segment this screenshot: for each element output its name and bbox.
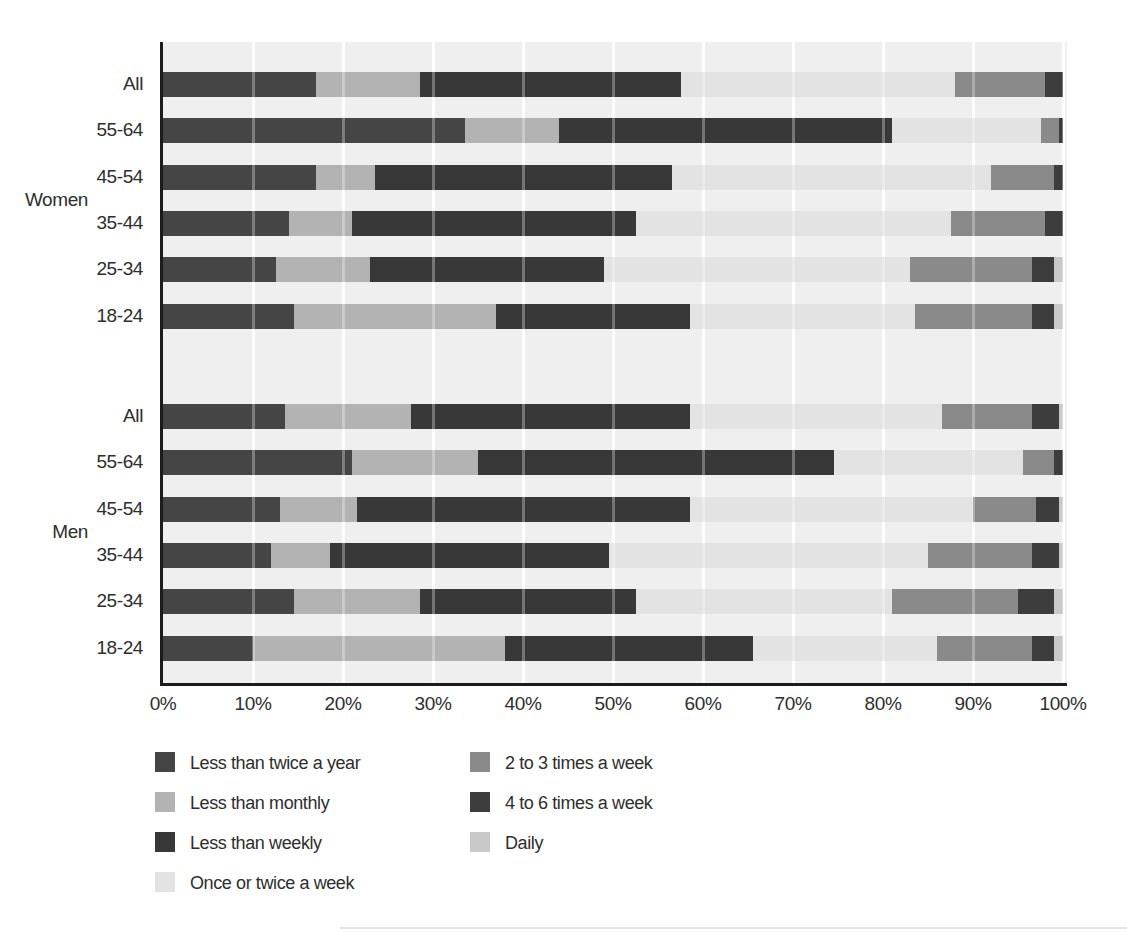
- bar-segment: [955, 72, 1045, 97]
- bar-segment: [1032, 636, 1055, 661]
- bar-segment: [163, 404, 285, 429]
- legend-swatch: [470, 832, 490, 852]
- bar-segment: [1018, 589, 1054, 614]
- x-tick-label: 10%: [235, 693, 272, 715]
- bar-segment: [690, 497, 974, 522]
- bar-segment: [910, 257, 1032, 282]
- gridline-overlay: [432, 42, 435, 683]
- bar-segment: [163, 118, 465, 143]
- bar-segment: [163, 497, 280, 522]
- bar-segment: [294, 304, 497, 329]
- x-tick-label: 20%: [325, 693, 362, 715]
- gridline-overlay: [792, 42, 795, 683]
- bar-segment: [276, 257, 371, 282]
- bar-segment: [892, 589, 1018, 614]
- bar-segment: [937, 636, 1032, 661]
- bar-segment: [1036, 497, 1059, 522]
- scan-artifact-line: [340, 927, 1127, 929]
- x-tick-label: 0%: [150, 693, 177, 715]
- bar-segment: [352, 450, 478, 475]
- x-tick-label: 100%: [1040, 693, 1087, 715]
- x-tick-label: 90%: [955, 693, 992, 715]
- bar-segment: [690, 304, 915, 329]
- bar-segment: [163, 165, 316, 190]
- bar-segment: [465, 118, 560, 143]
- group-label-women: Women: [6, 189, 88, 211]
- bar-segment: [496, 304, 690, 329]
- bar-segment: [411, 404, 690, 429]
- bar-segment: [505, 636, 753, 661]
- legend-swatch: [155, 872, 175, 892]
- bar-segment: [942, 404, 1032, 429]
- x-tick-label: 60%: [685, 693, 722, 715]
- x-tick-label: 30%: [415, 693, 452, 715]
- bar-segment: [316, 165, 375, 190]
- bar-segment: [1032, 404, 1059, 429]
- legend-label: Less than twice a year: [190, 753, 360, 774]
- row-label: All: [40, 73, 143, 95]
- row-label: 18-24: [40, 305, 143, 327]
- bar-segment: [892, 118, 1041, 143]
- bar-segment: [163, 450, 352, 475]
- bar-segment: [316, 72, 420, 97]
- bar-segment: [753, 636, 938, 661]
- x-tick-label: 80%: [865, 693, 902, 715]
- bar-segment: [420, 72, 681, 97]
- legend-swatch: [155, 752, 175, 772]
- bar-segment: [1045, 211, 1063, 236]
- bar-segment: [834, 450, 1023, 475]
- row-label: 18-24: [40, 637, 143, 659]
- bar-segment: [163, 636, 253, 661]
- gridline-overlay: [1062, 42, 1065, 683]
- y-axis-line: [160, 42, 163, 686]
- bar-segment: [1023, 450, 1055, 475]
- legend-label: 4 to 6 times a week: [505, 793, 652, 814]
- bar-segment: [280, 497, 357, 522]
- bar-segment: [559, 118, 892, 143]
- legend-label: Less than weekly: [190, 833, 322, 854]
- legend-swatch: [155, 832, 175, 852]
- group-label-men: Men: [6, 521, 88, 543]
- row-label: 55-64: [40, 119, 143, 141]
- gridline-overlay: [702, 42, 705, 683]
- bar-segment: [163, 304, 294, 329]
- bar-segment: [285, 404, 411, 429]
- gridline-overlay: [252, 42, 255, 683]
- row-label: 45-54: [40, 498, 143, 520]
- bar-segment: [294, 589, 420, 614]
- bar-segment: [951, 211, 1046, 236]
- gridline-overlay: [612, 42, 615, 683]
- legend-swatch: [155, 792, 175, 812]
- bar-segment: [271, 543, 330, 568]
- bar-segment: [672, 165, 992, 190]
- bar-segment: [690, 404, 942, 429]
- chart-canvas: All55-6445-5435-4425-3418-24WomenAll55-6…: [0, 0, 1127, 932]
- bar-segment: [636, 589, 893, 614]
- bar-segment: [991, 165, 1054, 190]
- bar-segment: [352, 211, 636, 236]
- legend-swatch: [470, 792, 490, 812]
- bar-segment: [478, 450, 834, 475]
- gridline-overlay: [882, 42, 885, 683]
- bar-segment: [609, 543, 929, 568]
- legend-label: Daily: [505, 833, 543, 854]
- bar-segment: [973, 497, 1036, 522]
- bar-segment: [330, 543, 609, 568]
- bar-segment: [163, 257, 276, 282]
- row-label: 55-64: [40, 451, 143, 473]
- bar-segment: [1032, 257, 1055, 282]
- legend-label: Less than monthly: [190, 793, 329, 814]
- bar-segment: [1045, 72, 1063, 97]
- legend-label: Once or twice a week: [190, 873, 354, 894]
- bar-segment: [253, 636, 505, 661]
- gridline-overlay: [342, 42, 345, 683]
- x-axis-line: [160, 683, 1067, 686]
- row-label: 45-54: [40, 166, 143, 188]
- x-tick-label: 40%: [505, 693, 542, 715]
- bar-segment: [1041, 118, 1059, 143]
- row-label: 35-44: [40, 544, 143, 566]
- legend-swatch: [470, 752, 490, 772]
- legend-label: 2 to 3 times a week: [505, 753, 652, 774]
- row-label: 35-44: [40, 212, 143, 234]
- gridline-overlay: [972, 42, 975, 683]
